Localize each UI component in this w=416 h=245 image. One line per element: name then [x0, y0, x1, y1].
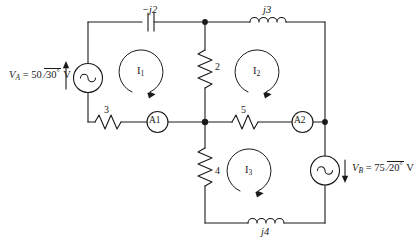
- mesh-current-label-i3: I3: [245, 165, 252, 176]
- resistor-symbol-5: [232, 115, 258, 129]
- capacitor-symbol-minus-j2: [148, 13, 154, 31]
- source-va-degree: °: [57, 68, 60, 77]
- source-vb-unit: V: [406, 162, 414, 173]
- source-vb-angle-bracket: ⁄20°: [387, 161, 403, 173]
- circuit-schematic-svg: [0, 0, 416, 245]
- source-vb-value: = 75: [366, 162, 385, 173]
- resistor-symbol-3: [95, 115, 121, 129]
- source-va-value: = 50: [23, 69, 42, 80]
- source-vb-subscript: B: [358, 166, 363, 175]
- mesh-current-i3-subscript: 3: [249, 168, 253, 177]
- polarity-arrowhead-va: [63, 61, 69, 68]
- polarity-arrowhead-vb: [342, 176, 348, 183]
- inductor-symbol-j4: [248, 219, 284, 224]
- source-va-subscript: A: [15, 73, 20, 82]
- resistor-label-4: 4: [215, 166, 220, 176]
- circuit-diagram-canvas: −j2 j3 j4 3 2 4 5 A1 A2 I1 I2 I3 VA = 50…: [0, 0, 416, 245]
- inductor-symbol-j3: [250, 18, 286, 23]
- junction-dot-top-center: [202, 19, 208, 25]
- ac-source-symbol-vb: [311, 156, 340, 185]
- junction-dot-right: [322, 119, 328, 125]
- source-va-angle-bracket: ⁄30°: [44, 68, 60, 80]
- resistor-label-2: 2: [215, 62, 220, 72]
- resistor-symbol-2: [198, 50, 212, 88]
- resistor-label-3: 3: [104, 105, 109, 115]
- source-va-angle: 30: [46, 69, 57, 80]
- mesh-current-label-i1: I1: [137, 66, 144, 77]
- capacitor-label-minus-j2: −j2: [142, 5, 157, 16]
- resistor-label-5: 5: [241, 105, 246, 115]
- junction-dot-center: [202, 119, 208, 125]
- mesh-current-i1-subscript: 1: [141, 69, 145, 78]
- mesh-current-i2-subscript: 2: [257, 69, 261, 78]
- source-va-unit: V: [63, 69, 71, 80]
- ammeter-label-a2: A2: [294, 116, 306, 126]
- ac-source-symbol-va: [74, 64, 103, 93]
- mesh-arrowhead-i2: [263, 92, 271, 98]
- resistor-symbol-4: [198, 148, 212, 186]
- source-label-vb: VB = 75 ⁄20° V: [352, 162, 414, 174]
- mesh-arrowhead-i1: [147, 92, 155, 98]
- mesh-arrowhead-i3: [255, 191, 263, 197]
- inductor-label-j3: j3: [263, 5, 271, 16]
- source-vb-angle: 20: [389, 162, 400, 173]
- mesh-current-label-i2: I2: [253, 66, 260, 77]
- ammeter-label-a1: A1: [149, 116, 161, 126]
- inductor-label-j4: j4: [261, 227, 269, 238]
- source-label-va: VA = 50 ⁄30° V: [9, 69, 71, 81]
- source-vb-degree: °: [400, 161, 403, 170]
